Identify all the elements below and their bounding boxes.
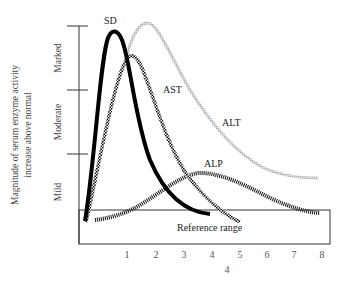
alt-label: ALT — [222, 117, 241, 128]
x-tick-8: 8 — [320, 249, 325, 260]
y-label-mild: Mild — [53, 183, 63, 202]
x-axis-title: 4 — [225, 264, 230, 275]
y-axis-title-line2: increase above normal — [23, 92, 33, 178]
y-axis-title: Magnitude of serum enzyme activity incre… — [10, 65, 33, 205]
x-tick-5: 5 — [238, 249, 243, 260]
x-tick-1: 1 — [125, 249, 130, 260]
x-tick-4: 4 — [210, 249, 215, 260]
x-tick-7: 7 — [292, 249, 297, 260]
x-axis-ticks: 1 2 3 4 5 6 7 8 — [125, 249, 325, 260]
x-tick-2: 2 — [154, 249, 159, 260]
x-tick-3: 3 — [182, 249, 187, 260]
ast-label: AST — [163, 84, 182, 95]
reference-range-label: Reference range — [177, 222, 243, 233]
enzyme-activity-chart: Magnitude of serum enzyme activity incre… — [0, 0, 350, 281]
alp-label: ALP — [204, 158, 223, 169]
sd-label: SD — [104, 15, 117, 26]
y-label-marked: Marked — [53, 43, 63, 73]
sd-curve — [85, 31, 210, 221]
y-axis-title-line1: Magnitude of serum enzyme activity — [10, 65, 20, 205]
x-tick-6: 6 — [265, 249, 270, 260]
ast-curve — [86, 56, 240, 222]
y-label-moderate: Moderate — [53, 104, 63, 140]
